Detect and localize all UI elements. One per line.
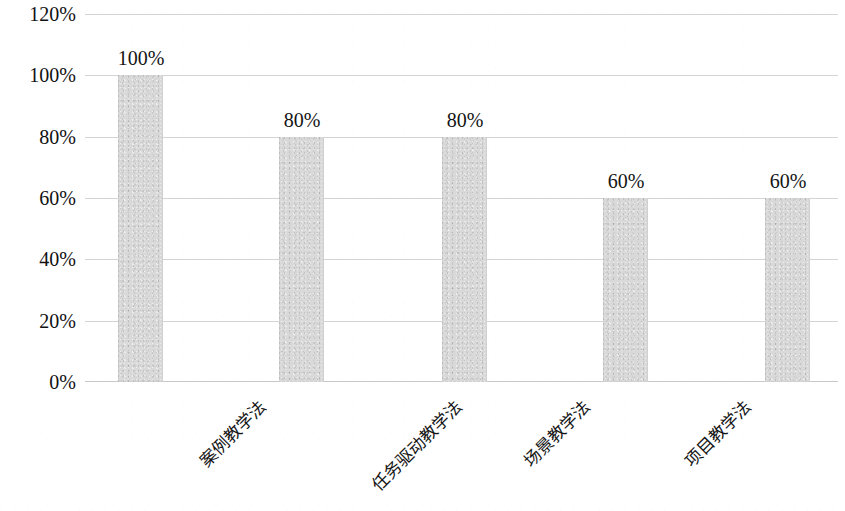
y-axis-tick-label: 80%	[39, 127, 76, 147]
bar-modular-teaching	[765, 198, 810, 382]
y-axis-tick-label: 0%	[49, 372, 76, 392]
gridline-120	[85, 14, 838, 15]
y-axis-tick-label: 20%	[39, 311, 76, 331]
gridline-100	[85, 75, 838, 76]
y-axis-tick-label: 100%	[29, 65, 76, 85]
value-label: 100%	[118, 48, 165, 68]
bar-project-teaching	[603, 198, 648, 382]
value-label: 60%	[770, 171, 807, 191]
y-axis-tick-label: 120%	[29, 4, 76, 24]
value-label: 80%	[447, 110, 484, 130]
bar-task-driven-teaching	[279, 137, 324, 382]
bar-case-teaching	[118, 75, 163, 382]
bar-scenario-teaching	[442, 137, 487, 382]
bar-chart: 120% 100% 80% 60% 40% 20% 0% 100% 80% 80…	[0, 0, 845, 511]
value-label: 80%	[284, 110, 321, 130]
y-axis-tick-label: 40%	[39, 249, 76, 269]
plot-area	[85, 14, 838, 382]
y-axis-tick-label: 60%	[39, 188, 76, 208]
value-label: 60%	[608, 171, 645, 191]
